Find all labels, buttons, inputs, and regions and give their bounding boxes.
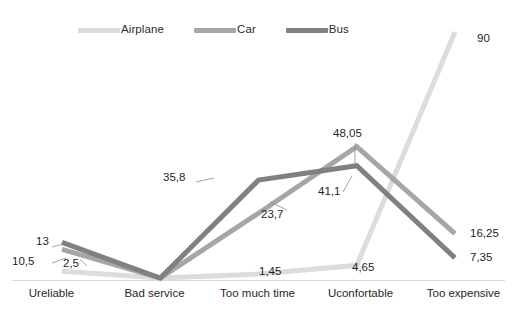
category-label-too-expensive: Too expensive (412, 288, 515, 304)
data-label-car-tooexpensive: 16,25 (470, 228, 499, 240)
line-chart: Airplane Car Bus (0, 0, 515, 323)
data-label-bus-ureliable: 13 (36, 236, 49, 248)
data-label-airplane-uconfortable: 4,65 (352, 262, 374, 274)
category-label-too-much-time: Too much time (206, 288, 309, 304)
series-line-airplane (62, 32, 455, 278)
category-label-bad-service: Bad service (103, 288, 206, 304)
category-label-ureliable: Ureliable (0, 288, 103, 304)
data-label-airplane-ureliable: 2,5 (63, 258, 79, 270)
data-label-car-uconfortable: 48,05 (333, 128, 362, 140)
plot-area (0, 0, 515, 323)
data-label-airplane-tooexpensive: 90 (477, 33, 490, 45)
category-label-uconfortable: Uconfortable (309, 288, 412, 304)
data-label-bus-tooexpensive: 7,35 (470, 252, 492, 264)
data-label-car-toomuchtime: 23,7 (261, 209, 283, 221)
category-axis: Ureliable Bad service Too much time Ucon… (0, 288, 515, 304)
data-label-bus-toomuchtime: 35,8 (163, 172, 185, 184)
data-label-bus-uconfortable: 41,1 (318, 186, 340, 198)
data-label-airplane-toomuchtime: 1,45 (259, 266, 281, 278)
data-label-car-ureliable: 10,5 (12, 256, 34, 268)
